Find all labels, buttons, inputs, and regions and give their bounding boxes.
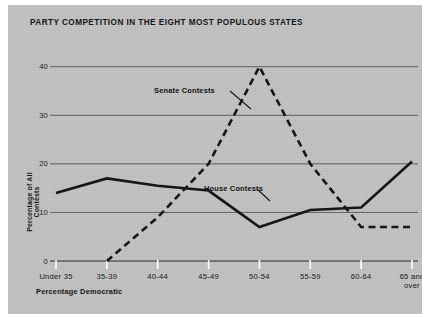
xtick-label-3: 45-49 [181, 272, 237, 281]
gridlines-group [50, 67, 418, 261]
series-line-house-contests [56, 161, 412, 227]
ytick-label-40: 40 [26, 62, 48, 71]
xtick-label-1: 35-39 [79, 272, 135, 281]
yaxis-title: Percentage of All Contests [26, 157, 40, 247]
xtick-label-0: Under 35 [28, 272, 84, 281]
xtick-label-5: 55-59 [282, 272, 338, 281]
figure-panel: PARTY COMPETITION IN THE EIGHT MOST POPU… [8, 5, 422, 314]
chart-plot-area [8, 5, 422, 314]
senate-leader-line [230, 91, 251, 109]
senate-series-label: Senate Contests [154, 86, 215, 95]
ytick-label-30: 30 [26, 111, 48, 120]
xtick-label-2: 40-44 [130, 272, 186, 281]
house-series-label: House Contests [204, 184, 263, 193]
xtick-label-7: 65 and over [384, 272, 422, 290]
xtick-label-6: 60-64 [333, 272, 389, 281]
ytick-label-0: 0 [26, 257, 48, 266]
xaxis-title: Percentage Democratic [36, 287, 122, 296]
xtick-label-4: 50-54 [231, 272, 287, 281]
